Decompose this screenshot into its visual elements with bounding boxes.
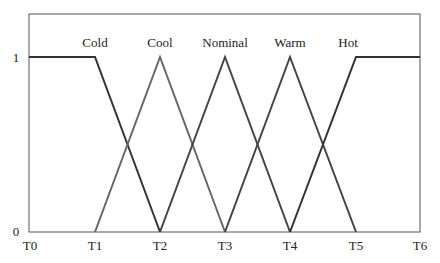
x-tick-t6: T6 <box>413 238 428 253</box>
label-nominal: Nominal <box>202 35 248 50</box>
label-cold: Cold <box>82 35 108 50</box>
set-warm-line <box>225 57 356 232</box>
set-hot-line <box>290 57 420 232</box>
x-tick-t5: T5 <box>349 238 363 253</box>
set-cold-line <box>29 57 160 232</box>
x-tick-t2: T2 <box>153 238 167 253</box>
label-hot: Hot <box>338 35 358 50</box>
y-tick-0: 0 <box>13 224 20 239</box>
membership-diagram: Cold Cool Nominal Warm Hot 1 0 T0 T1 T2 … <box>0 0 440 263</box>
x-tick-t4: T4 <box>283 238 298 253</box>
x-tick-t0: T0 <box>23 238 37 253</box>
label-warm: Warm <box>274 35 305 50</box>
y-tick-1: 1 <box>13 50 20 65</box>
set-nominal-line <box>160 57 290 232</box>
x-tick-t1: T1 <box>88 238 102 253</box>
set-cool-line <box>95 57 225 232</box>
label-cool: Cool <box>147 35 173 50</box>
x-tick-t3: T3 <box>218 238 232 253</box>
